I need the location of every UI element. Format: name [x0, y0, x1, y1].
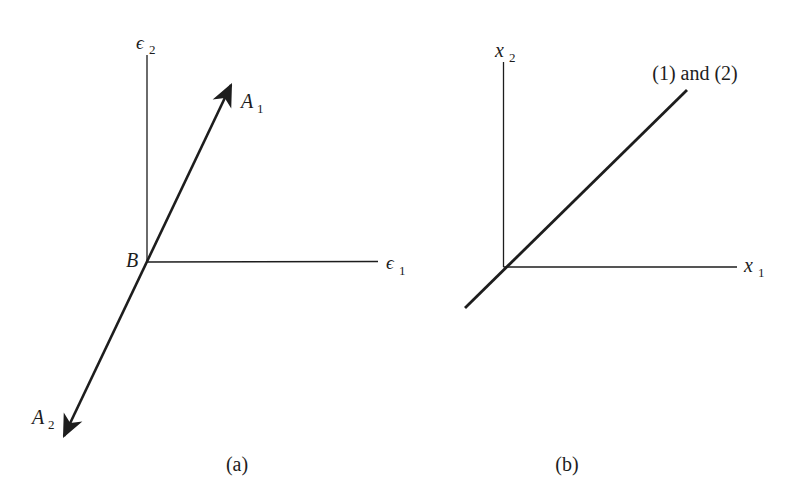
coincident-lines-label: (1) and (2): [652, 62, 738, 85]
x1-subscript: 1: [758, 265, 765, 280]
x1-base: x: [743, 254, 753, 276]
figure-canvas: ϵ 2 ϵ 1 B A 1 A 2 (a): [0, 0, 785, 497]
A2-base: A: [30, 406, 45, 428]
epsilon1-subscript: 1: [399, 263, 406, 278]
A1-base: A: [239, 90, 254, 112]
textbook-figure: ϵ 2 ϵ 1 B A 1 A 2 (a): [0, 0, 785, 497]
panel-a-x-axis-label: ϵ 1: [386, 252, 406, 278]
epsilon2-base: ϵ: [136, 32, 145, 53]
A2-subscript: 2: [48, 417, 55, 432]
panel-b-caption: (b): [555, 453, 578, 476]
epsilon2-subscript: 2: [149, 42, 156, 57]
panel-b-y-axis-label: x 2: [494, 39, 516, 65]
A1-subscript: 1: [257, 101, 264, 116]
panel-b-solution-line: [465, 90, 687, 308]
panel-a: ϵ 2 ϵ 1 B A 1 A 2 (a): [30, 32, 406, 476]
x2-base: x: [494, 39, 504, 61]
panel-a-x-axis: [147, 262, 378, 263]
vector-A1-label: A 1: [239, 90, 264, 116]
panel-a-caption: (a): [226, 453, 248, 476]
vector-A2-label: A 2: [30, 406, 55, 432]
origin-label-B: B: [126, 249, 138, 271]
panel-a-y-axis-label: ϵ 2: [136, 32, 156, 57]
panel-b-x-axis-label: x 1: [743, 254, 765, 280]
x2-subscript: 2: [509, 50, 516, 65]
epsilon1-base: ϵ: [386, 252, 395, 273]
panel-b: x 2 x 1 (1) and (2) (b): [465, 39, 765, 476]
